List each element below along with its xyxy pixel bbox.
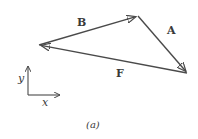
vector-b-arrow (39, 17, 136, 45)
vector-f-arrow (41, 45, 187, 73)
vector-b-label: B (77, 16, 86, 29)
figure-caption: (a) (86, 119, 100, 130)
vector-diagram: B A F y x (a) (0, 0, 198, 139)
vector-a-arrow (138, 16, 186, 72)
vector-f-label: F (116, 67, 124, 80)
x-axis-label: x (42, 96, 49, 109)
vector-a-label: A (166, 24, 176, 37)
y-axis-label: y (17, 72, 25, 85)
